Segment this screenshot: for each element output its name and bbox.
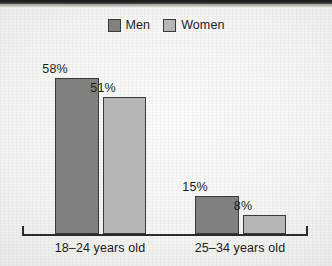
bar-value-women-25-34: 8% <box>221 199 265 213</box>
plot-area: 58% 51% 15% 8% 18–24 years old 25–34 yea… <box>0 0 332 266</box>
bar-men-18-24 <box>55 78 99 234</box>
bar-value-men-25-34: 15% <box>173 180 217 194</box>
x-axis-tick-left <box>22 226 24 234</box>
x-axis-label-25-34: 25–34 years old <box>170 241 310 255</box>
bar-value-men-18-24: 58% <box>33 62 77 76</box>
x-axis-line <box>22 234 308 236</box>
bar-women-25-34 <box>243 215 286 234</box>
bar-value-women-18-24: 51% <box>81 81 125 95</box>
x-axis-tick-right <box>306 226 308 234</box>
bar-women-18-24 <box>103 97 146 234</box>
chart-figure: Men Women 58% 51% 15% 8% 18–24 years old… <box>0 0 332 266</box>
x-axis-label-18-24: 18–24 years old <box>30 241 170 255</box>
